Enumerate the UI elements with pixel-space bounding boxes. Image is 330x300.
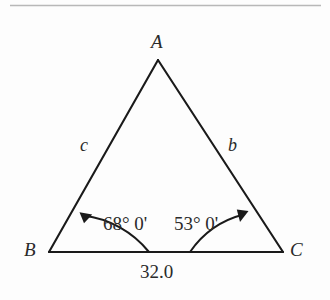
side-label-c: c (80, 136, 88, 154)
side-label-b: b (228, 136, 237, 154)
triangle-figure: A B C c b 68° 0' 53° 0' 32.0 (0, 0, 330, 300)
angle-measure-b: 68° 0' (103, 214, 147, 233)
base-length-label: 32.0 (140, 262, 173, 281)
vertex-label-c: C (290, 240, 303, 259)
vertex-label-a: A (151, 32, 163, 51)
angle-arc-c-arrowhead (237, 210, 249, 222)
vertex-label-b: B (24, 240, 36, 259)
triangle-drawing (0, 0, 330, 300)
angle-arc-b-arrowhead (80, 212, 93, 223)
angle-measure-c: 53° 0' (174, 214, 218, 233)
